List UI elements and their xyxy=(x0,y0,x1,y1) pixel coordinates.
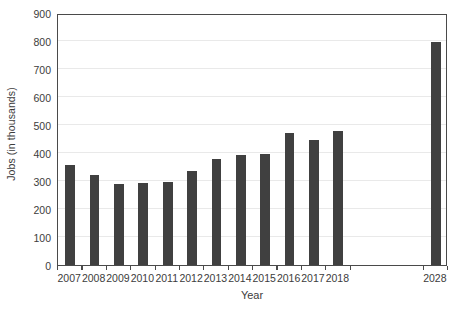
bar xyxy=(65,165,75,265)
x-axis-tick xyxy=(301,266,302,270)
bar xyxy=(309,140,319,265)
x-axis-tick-label: 2012 xyxy=(179,272,202,284)
bars-layer xyxy=(58,15,446,265)
x-axis-tick-label: 2010 xyxy=(131,272,154,284)
x-axis-tick xyxy=(228,266,229,270)
bar xyxy=(187,171,197,265)
y-axis-tick-label: 900 xyxy=(33,8,51,20)
x-axis-ticks xyxy=(57,266,447,271)
x-axis-tick-label: 2018 xyxy=(326,272,349,284)
x-axis-tick-label: 2009 xyxy=(106,272,129,284)
y-axis-title: Jobs (in thousands) xyxy=(0,0,22,268)
y-axis-tick-label: 700 xyxy=(33,64,51,76)
x-axis-tick xyxy=(106,266,107,270)
y-axis-tick-label: 600 xyxy=(33,92,51,104)
y-axis-tick-label: 300 xyxy=(33,176,51,188)
y-axis-tick-label: 100 xyxy=(33,232,51,244)
x-axis-tick xyxy=(57,266,58,270)
bar-chart: Jobs (in thousands) 01002003004005006007… xyxy=(0,0,464,310)
x-axis-tick-label: 2007 xyxy=(58,272,81,284)
x-axis-tick xyxy=(155,266,156,270)
bar xyxy=(285,133,295,265)
x-axis-title: Year xyxy=(57,289,447,301)
x-axis-tick-label: 2013 xyxy=(204,272,227,284)
bar xyxy=(431,42,441,265)
bar xyxy=(90,175,100,265)
y-axis-tick-label: 800 xyxy=(33,36,51,48)
x-axis-tick xyxy=(179,266,180,270)
bar xyxy=(236,155,246,265)
y-axis-tick-label: 500 xyxy=(33,120,51,132)
x-axis-tick-labels: 2007200820092010201120122013201420152016… xyxy=(57,272,447,288)
x-axis-tick xyxy=(130,266,131,270)
bar xyxy=(138,183,148,265)
y-axis-tick-labels: 0100200300400500600700800900 xyxy=(22,0,55,268)
x-axis-tick-label: 2008 xyxy=(82,272,105,284)
y-axis-tick-label: 400 xyxy=(33,148,51,160)
x-axis-tick-label: 2017 xyxy=(301,272,324,284)
y-axis-title-label: Jobs (in thousands) xyxy=(5,87,17,181)
x-axis-tick-label: 2014 xyxy=(228,272,251,284)
x-axis-tick-label: 2011 xyxy=(155,272,178,284)
bar xyxy=(260,154,270,265)
plot-area xyxy=(57,14,447,266)
x-axis-tick-label: 2016 xyxy=(277,272,300,284)
bar xyxy=(114,184,124,265)
x-axis-tick xyxy=(350,266,351,270)
y-axis-tick-label: 200 xyxy=(33,204,51,216)
y-axis-tick-label: 0 xyxy=(45,260,51,272)
x-axis-tick xyxy=(276,266,277,270)
x-axis-tick xyxy=(252,266,253,270)
x-axis-tick xyxy=(325,266,326,270)
x-axis-tick-label: 2028 xyxy=(423,272,446,284)
x-axis-tick-label: 2015 xyxy=(253,272,276,284)
x-axis-tick xyxy=(81,266,82,270)
x-axis-tick xyxy=(203,266,204,270)
bar xyxy=(333,131,343,265)
bar xyxy=(212,159,222,265)
bar xyxy=(163,182,173,265)
x-axis-tick xyxy=(447,266,448,270)
x-axis-tick xyxy=(423,266,424,270)
